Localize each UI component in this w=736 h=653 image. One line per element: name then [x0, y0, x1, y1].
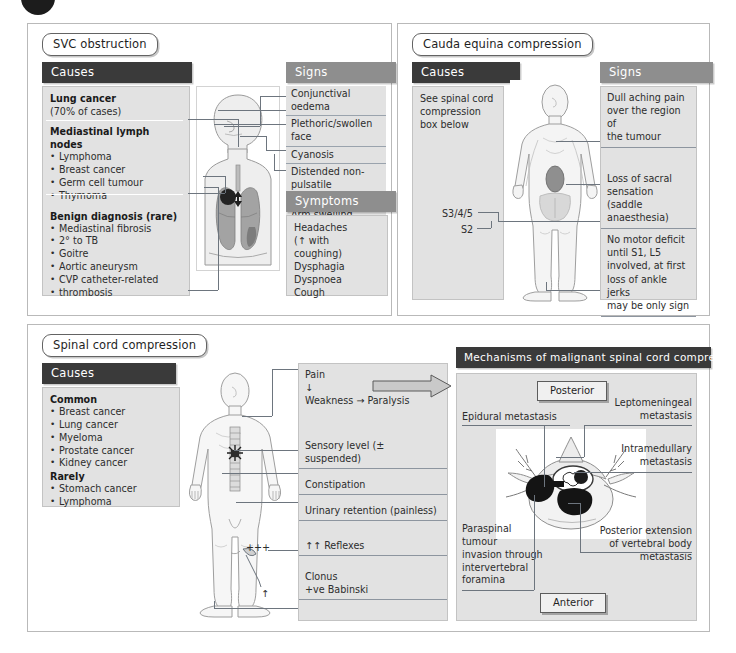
list-item: until S1, L5: [607, 246, 690, 259]
leader-line: [498, 221, 514, 222]
leader-line: [462, 425, 570, 426]
spinal-label-plus: +++: [246, 541, 270, 554]
svc-lung-cancer-title: Lung cancer: [50, 93, 116, 104]
spinal-signs-column: Pain ↓ Weakness → Paralysis Sensory leve…: [298, 363, 448, 621]
spinal-common-list: Breast cancer Lung cancer Myeloma Prosta…: [50, 406, 172, 470]
cauda-signs-box: Dull aching pain over the region of the …: [600, 86, 697, 300]
leader-line: [204, 187, 218, 188]
leader-line: [260, 96, 261, 126]
label-intramedullary-metastasis: Intramedullary metastasis: [588, 443, 692, 469]
leader-line: [242, 416, 272, 417]
spinal-causes-box: Common Breast cancer Lung cancer Myeloma…: [42, 387, 180, 507]
leader-line: [234, 450, 298, 451]
svc-signs-header: Signs: [286, 62, 396, 83]
cauda-signs-group: No motor deficit until S1, L5 involved, …: [601, 229, 696, 316]
label-line: metastasis: [640, 456, 692, 467]
leader-line: [236, 502, 298, 503]
leader-line: [188, 290, 218, 291]
cauda-signs-group: Dull aching pain over the region of the …: [601, 87, 696, 148]
mechanisms-header: Mechanisms of malignant spinal cord comp…: [456, 347, 711, 368]
cauda-label-s345: S3/4/5: [442, 207, 473, 220]
leader-line: [260, 96, 286, 97]
spinal-rarely-list: Stomach cancer Lymphoma: [50, 483, 172, 509]
leader-line: [580, 503, 581, 552]
list-item: Germ cell tumour: [50, 177, 182, 190]
leader-line: [274, 154, 275, 170]
svc-causes-box: Lung cancer (70% of cases) Mediastinal l…: [42, 86, 190, 296]
list-item: Dysphagia: [294, 260, 380, 273]
leader-line: [214, 608, 298, 609]
list-item: Cyanosis: [286, 147, 386, 165]
panel-spinal-cord-compression: Spinal cord compression Causes Common Br…: [27, 324, 710, 632]
cauda-causes-line: See spinal cord: [420, 92, 496, 105]
leader-line: [566, 184, 600, 185]
list-item: Prostate cancer: [50, 445, 172, 458]
cauda-body-illustration: [510, 80, 600, 302]
flow-arrow-icon: [373, 375, 453, 397]
leader-line: [584, 425, 692, 426]
list-item: Plethoric/swollen face: [286, 116, 386, 146]
leader-line: [224, 126, 260, 127]
list-item: Aortic aneurysm: [50, 261, 182, 274]
label-leptomeningeal-metastasis: Leptomeningeal metastasis: [588, 397, 692, 423]
divider: [46, 120, 183, 121]
cauda-signs-header: Signs: [600, 62, 713, 83]
anterior-button[interactable]: Anterior: [540, 593, 606, 613]
cauda-causes-header: Causes: [412, 62, 520, 83]
label-line: tumour: [462, 536, 497, 547]
list-item: +ve Babinski: [305, 583, 441, 596]
list-item: Lymphoma: [50, 151, 182, 164]
list-item: Constipation: [305, 478, 441, 491]
leader-line: [214, 124, 286, 125]
leader-line: [222, 473, 298, 474]
label-posterior-extension: Posterior extension of vertebral body me…: [580, 525, 692, 564]
list-item: Distended non-pulsatile: [286, 164, 386, 191]
leader-line: [188, 119, 238, 120]
leader-line: [268, 550, 298, 551]
leader-line: [218, 187, 219, 290]
list-item: Breast cancer: [50, 406, 172, 419]
panel-title-cauda: Cauda equina compression: [412, 33, 593, 56]
leader-line: [534, 495, 535, 590]
list-item: Mediastinal fibrosis: [50, 223, 182, 236]
list-item: ↑↑ Reflexes: [305, 539, 441, 552]
list-item: sensation (saddle: [607, 185, 690, 211]
spinal-signs-group: Sensory level (± suspended): [299, 411, 447, 469]
diagram-page: SVC obstruction Causes Lung cancer (70% …: [0, 0, 736, 653]
list-item: involved, at first: [607, 259, 690, 272]
spinal-causes-header: Causes: [42, 363, 176, 384]
leader-line: [238, 119, 239, 147]
label-line: of vertebral body: [609, 538, 692, 549]
list-item: Lymphoma: [50, 496, 172, 509]
list-item: Urinary retention (painless): [305, 504, 441, 517]
list-item: loss of ankle jerks: [607, 273, 690, 299]
label-line: Posterior extension: [600, 525, 692, 536]
list-item: anaesthesia): [607, 211, 690, 224]
svc-mediastinal-title: Mediastinal lymph nodes: [50, 126, 149, 150]
label-epidural-metastasis: Epidural metastasis: [462, 411, 568, 424]
list-item: over the region of: [607, 104, 690, 130]
leader-line: [491, 221, 492, 228]
leader-line: [546, 282, 547, 290]
leader-line: [272, 369, 273, 416]
list-item: Clonus: [305, 570, 441, 583]
spinal-signs-group: ↑↑ Reflexes: [299, 521, 447, 556]
svc-symptoms-box: Headaches (↑ with coughing) Dysphagia Dy…: [286, 215, 388, 296]
divider: [46, 194, 183, 195]
label-line: invasion through: [462, 549, 543, 560]
spinal-signs-group: Constipation: [299, 469, 447, 495]
list-item: Loss of sacral: [607, 172, 690, 185]
list-item: Thymoma: [50, 190, 182, 203]
list-item: may be only sign: [607, 299, 690, 312]
list-item: Breast cancer: [50, 164, 182, 177]
list-item: No motor deficit: [607, 233, 690, 246]
list-item: Lung cancer: [50, 419, 172, 432]
leader-line: [240, 136, 266, 137]
list-item: Cough: [294, 286, 380, 299]
leader-line: [556, 141, 600, 142]
leader-line: [214, 601, 215, 608]
spinal-label-up-arrow: ↑: [261, 587, 269, 600]
svc-lung-cancer-sub: (70% of cases): [50, 105, 182, 118]
svc-benign-title: Benign diagnosis (rare): [50, 211, 177, 222]
spinal-common-title: Common: [50, 394, 97, 405]
